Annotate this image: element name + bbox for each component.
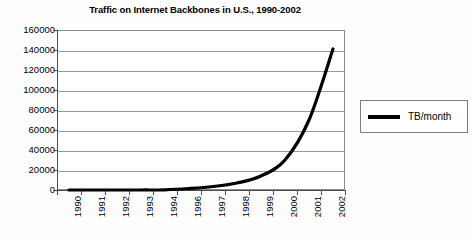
y-axis-tick-label: 140000	[0, 45, 55, 55]
y-axis-tick-label: 20000	[0, 165, 55, 175]
x-axis-tick-mark	[345, 190, 346, 195]
x-axis-tick-mark	[273, 190, 274, 195]
legend-swatch-icon	[368, 115, 400, 119]
x-axis-tick-label: 1991	[97, 196, 107, 217]
chart-title: Traffic on Internet Backbones in U.S., 1…	[0, 4, 390, 15]
x-axis-tick-label: 2000	[289, 196, 299, 217]
x-axis-tick-mark	[297, 190, 298, 195]
x-axis-tick-mark	[321, 190, 322, 195]
y-axis-tick-label: 100000	[0, 85, 55, 95]
x-axis-tick-label: 1997	[217, 196, 227, 217]
x-axis-tick-label: 1999	[265, 196, 275, 217]
y-axis-tick-label: 160000	[0, 25, 55, 35]
x-axis-tick-label: 1993	[145, 196, 155, 217]
y-axis-tick-label: 120000	[0, 65, 55, 75]
x-axis-tick-label: 1998	[241, 196, 251, 217]
y-axis-tick-label: 40000	[0, 145, 55, 155]
legend-entry-label: TB/month	[408, 111, 451, 122]
legend-entry-tb-per-month: TB/month	[361, 101, 467, 132]
x-axis-tick-label: 1996	[193, 196, 203, 217]
x-axis-tick-label: 2002	[337, 196, 347, 217]
x-axis-tick-mark	[225, 190, 226, 195]
y-axis-tick-label: 0	[0, 185, 55, 195]
x-axis-tick-label: 1994	[169, 196, 179, 217]
x-axis-tick-label: 1992	[121, 196, 131, 217]
chart-container: Traffic on Internet Backbones in U.S., 1…	[0, 0, 474, 237]
x-axis-tick-label: 1990	[73, 196, 83, 217]
series-tb-per-month	[57, 30, 345, 190]
y-axis-tick-label: 60000	[0, 125, 55, 135]
x-axis-tick-mark	[201, 190, 202, 195]
x-axis-tick-label: 2001	[313, 196, 323, 217]
x-axis-tick-mark	[57, 190, 58, 195]
y-axis-tick-label: 80000	[0, 105, 55, 115]
x-axis-tick-mark	[249, 190, 250, 195]
chart-legend: TB/month	[360, 100, 468, 133]
